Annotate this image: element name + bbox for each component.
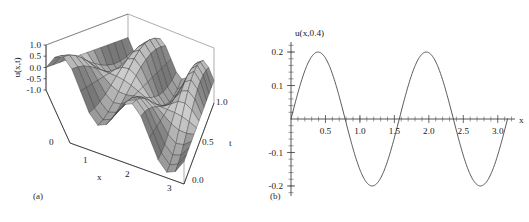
x-tick-label: 2.0 — [423, 126, 435, 136]
x-tick-label: 3 — [167, 183, 172, 193]
y-axis: 0.20.1-0.1-0.2 u(x,0.4) — [268, 28, 324, 196]
panel-b-line-plot: 0.20.1-0.1-0.2 u(x,0.4) 0.51.01.52.02.53… — [265, 0, 529, 222]
x-tick-label: 1.0 — [354, 126, 366, 136]
z-tick-label: 1.0 — [30, 40, 42, 50]
x-tick-label: 0 — [49, 137, 54, 147]
panel-a-caption: (a) — [33, 191, 43, 201]
x-tick-label: 0.5 — [320, 126, 332, 136]
panel-a-surface-plot: 1.0 0.5 0.0 -0.5 -1.0 u(x,t) 0 1 2 3 x 0… — [0, 0, 265, 222]
z-tick-label: 0.0 — [30, 63, 42, 73]
z-axis: 1.0 0.5 0.0 -0.5 -1.0 u(x,t) — [12, 40, 46, 95]
t-axis-label: t — [229, 138, 232, 148]
figure-container: 1.0 0.5 0.0 -0.5 -1.0 u(x,t) 0 1 2 3 x 0… — [0, 0, 529, 222]
t-tick-label: 0.5 — [202, 137, 214, 147]
y-tick-label: -0.1 — [268, 148, 283, 158]
line-plot-svg: 0.20.1-0.1-0.2 u(x,0.4) 0.51.01.52.02.53… — [265, 0, 529, 222]
z-axis-label: u(x,t) — [12, 57, 22, 77]
z-tick-label: -0.5 — [26, 74, 41, 84]
surface-plot-svg: 1.0 0.5 0.0 -0.5 -1.0 u(x,t) 0 1 2 3 x 0… — [0, 0, 265, 222]
z-tick-label: 0.5 — [30, 51, 42, 61]
y-tick-label: -0.2 — [268, 181, 283, 191]
y-tick-label: 0.1 — [272, 81, 284, 91]
x-tick-label: 2 — [125, 169, 130, 179]
panel-b-caption: (b) — [270, 191, 281, 201]
z-tick-label: -1.0 — [26, 85, 41, 95]
x-tick-label: 1.5 — [389, 126, 401, 136]
surface-mesh — [46, 38, 214, 173]
t-tick-label: 0.0 — [192, 175, 204, 185]
x-axis-label: x — [97, 172, 102, 182]
x-tick-label: 1 — [83, 155, 88, 165]
x-tick-label: 3.0 — [492, 126, 504, 136]
y-tick-label: 0.2 — [272, 47, 284, 57]
x-tick-label: 2.5 — [458, 126, 470, 136]
t-tick-label: 1.0 — [216, 97, 228, 107]
x-axis-label: x — [519, 115, 524, 125]
x-axis: 0.51.01.52.02.53.0 x — [291, 115, 524, 136]
y-axis-label: u(x,0.4) — [295, 28, 324, 38]
